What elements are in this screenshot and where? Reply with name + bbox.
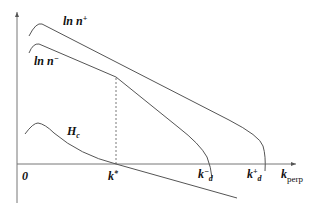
- k-d-minus-sub: d: [209, 174, 213, 183]
- label-k-d-minus: k−d: [198, 168, 213, 183]
- diagram-canvas: [0, 0, 320, 209]
- k-perp-sub: perp: [287, 174, 303, 184]
- label-hc: Hc: [67, 125, 80, 140]
- hc-sub: c: [76, 131, 80, 140]
- origin-text: 0: [22, 169, 28, 183]
- k-star-sup: *: [114, 169, 118, 178]
- ln-n-plus-base: ln n: [63, 14, 83, 28]
- ln-n-minus-sup: −: [54, 54, 59, 63]
- label-k-perp: kperp: [281, 168, 303, 184]
- ln-n-minus-base: ln n: [34, 54, 54, 68]
- k-d-plus-sub: d: [258, 174, 262, 183]
- label-ln-n-plus: ln n+: [63, 15, 87, 27]
- label-k-d-plus: k+d: [247, 168, 262, 183]
- ln-n-plus-sup: +: [83, 14, 88, 23]
- label-k-star: k*: [108, 170, 118, 182]
- label-origin: 0: [22, 170, 28, 182]
- curve-ln-n-plus: [29, 24, 265, 171]
- curve-hc: [25, 123, 237, 198]
- label-ln-n-minus: ln n−: [34, 55, 59, 67]
- hc-base: H: [67, 124, 76, 138]
